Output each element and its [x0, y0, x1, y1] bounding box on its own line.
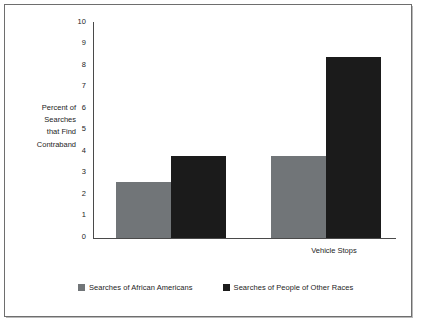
bar-group1-other-races[interactable] [171, 156, 226, 238]
y-tick-label-3: 3 [60, 168, 86, 176]
plot-area: 10 9 8 7 6 5 4 3 2 1 0 Percent of Search… [0, 0, 421, 326]
legend-swatch-icon-african-americans [78, 284, 85, 291]
legend-entry-african-americans[interactable]: Searches of African Americans [78, 283, 193, 292]
chart-page: 10 9 8 7 6 5 4 3 2 1 0 Percent of Search… [0, 0, 421, 326]
y-axis-title-line-3: that Find [14, 126, 76, 138]
y-axis-title-line-1: Percent of [14, 102, 76, 114]
y-axis-line [93, 22, 94, 239]
y-tick-label-9: 9 [60, 39, 86, 47]
chart-legend: Searches of African Americans Searches o… [78, 283, 353, 292]
y-axis-title-line-4: Contraband [14, 139, 76, 151]
legend-swatch-icon-other-races [223, 284, 230, 291]
x-axis-line [93, 238, 396, 239]
y-tick-label-2: 2 [60, 190, 86, 198]
y-tick-label-10: 10 [60, 18, 86, 26]
bar-group2-african-americans[interactable] [271, 156, 326, 238]
y-axis-title: Percent of Searches that Find Contraband [14, 102, 76, 151]
category-label-vehicle-stops: Vehicle Stops [294, 246, 374, 255]
bar-group1-african-americans[interactable] [116, 182, 171, 238]
y-tick-label-0: 0 [60, 233, 86, 241]
legend-entry-other-races[interactable]: Searches of People of Other Races [223, 283, 354, 292]
y-tick-label-1: 1 [60, 211, 86, 219]
y-tick-label-8: 8 [60, 61, 86, 69]
legend-label-other-races: Searches of People of Other Races [234, 283, 354, 292]
bar-group2-other-races[interactable] [326, 57, 381, 238]
y-tick-label-7: 7 [60, 82, 86, 90]
legend-label-african-americans: Searches of African Americans [89, 283, 193, 292]
y-axis-title-line-2: Searches [14, 114, 76, 126]
